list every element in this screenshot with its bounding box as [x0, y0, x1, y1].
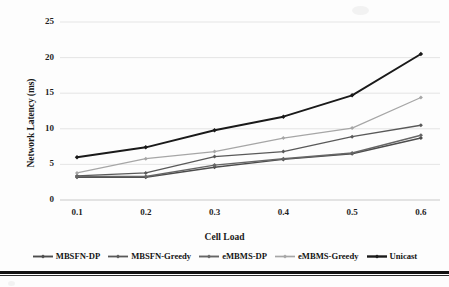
legend-item-embms-dp[interactable]: eMBMS-DP [198, 252, 267, 261]
gridlines [60, 22, 440, 200]
data-point-marker [213, 155, 217, 159]
data-point-marker [144, 171, 148, 175]
data-point-marker [75, 171, 79, 175]
series-unicast [75, 52, 423, 160]
data-point-marker [75, 155, 79, 159]
data-point-marker [350, 126, 354, 130]
legend-line-icon [32, 252, 54, 261]
data-point-marker [281, 136, 285, 140]
x-tick-label: 0.6 [401, 207, 441, 217]
legend-line-icon [366, 252, 388, 261]
x-tick-label: 0.4 [263, 207, 303, 217]
series-lines [75, 52, 423, 179]
legend-label: eMBMS-Greedy [298, 252, 358, 261]
legend-label: Unicast [390, 252, 418, 261]
data-point-marker [419, 133, 423, 137]
data-point-marker [419, 96, 423, 100]
data-point-marker [281, 114, 285, 118]
y-tick-label: 25 [28, 16, 54, 26]
chart-figure: 0510152025 0.10.20.30.40.50.6 Network La… [0, 0, 449, 287]
legend-line-icon [107, 252, 129, 261]
legend-label: MBSFN-DP [56, 252, 100, 261]
legend-item-unicast[interactable]: Unicast [366, 252, 418, 261]
legend-item-mbsfn-greedy[interactable]: MBSFN-Greedy [107, 252, 191, 261]
legend-label: eMBMS-DP [222, 252, 267, 261]
x-tick-label: 0.2 [126, 207, 166, 217]
legend-item-mbsfn-dp[interactable]: MBSFN-DP [32, 252, 100, 261]
chart-legend: MBSFN-DPMBSFN-GreedyeMBMS-DPeMBMS-Greedy… [0, 252, 449, 261]
legend-line-icon [274, 252, 296, 261]
data-point-marker [144, 157, 148, 161]
scan-artifact [8, 281, 15, 286]
legend-line-icon [198, 252, 220, 261]
page-rule-thick [0, 271, 449, 274]
data-point-marker [419, 123, 423, 127]
x-tick-label: 0.5 [332, 207, 372, 217]
series-mbsfn-dp [75, 136, 423, 179]
data-point-marker [213, 150, 217, 154]
legend-item-embms-greedy[interactable]: eMBMS-Greedy [274, 252, 358, 261]
x-tick-label: 0.3 [195, 207, 235, 217]
y-axis-title: Network Latency (ms) [26, 43, 36, 203]
data-point-marker [281, 150, 285, 154]
x-tick-label: 0.1 [57, 207, 97, 217]
data-point-marker [75, 174, 79, 178]
data-point-marker [144, 174, 148, 178]
plot-area [0, 0, 449, 287]
legend-label: MBSFN-Greedy [131, 252, 191, 261]
series-line [77, 54, 421, 157]
page-rule-thin [0, 275, 449, 276]
data-point-marker [350, 135, 354, 139]
scan-artifact [352, 6, 369, 15]
series-embms-dp [75, 133, 423, 178]
series-line [77, 138, 421, 177]
data-point-marker [144, 145, 148, 149]
series-line [77, 135, 421, 176]
x-axis-title: Cell Load [0, 232, 449, 242]
